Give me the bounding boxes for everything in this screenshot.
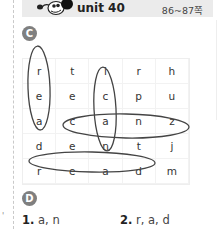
unit-title: unit 40 [77, 1, 125, 15]
grid-cell: n [123, 109, 156, 134]
grid-cell: c [89, 84, 122, 109]
answer-text: r, a, d [136, 213, 170, 227]
grid-cell: r [23, 59, 56, 84]
margin-dashed-line [13, 0, 14, 229]
margin-mark: ' [2, 212, 4, 221]
page-edge-line [216, 20, 217, 120]
grid-cell: d [123, 159, 156, 184]
page-range: 86~87쪽 [162, 3, 203, 17]
cartoon-mascot-icon [36, 0, 78, 16]
grid-cell: i [89, 59, 122, 84]
section-c-badge: C [22, 26, 37, 41]
grid-cell: t [123, 134, 156, 159]
grid-cell: n [89, 134, 122, 159]
grid-cell: e [23, 84, 56, 109]
answer-2: 2. r, a, d [120, 213, 170, 227]
grid-cell: z [156, 109, 189, 134]
grid-cell: e [56, 84, 89, 109]
grid-cell: a [89, 109, 122, 134]
grid-cell: j [156, 134, 189, 159]
grid-cell: p [123, 84, 156, 109]
grid-cell: e [56, 159, 89, 184]
grid-cell: r [123, 59, 156, 84]
grid-cell: t [56, 59, 89, 84]
answer-1: 1. a, n [22, 213, 60, 227]
unit-header: unit 40 86~87쪽 [22, 0, 213, 17]
answer-text: a, n [38, 213, 60, 227]
grid-cell: u [156, 84, 189, 109]
section-d-badge: D [22, 191, 37, 206]
grid-cell: a [23, 109, 56, 134]
answer-number: 2. [120, 213, 132, 227]
grid-cell: c [56, 109, 89, 134]
grid-cell: m [156, 159, 189, 184]
word-search-grid: r t i r h e e c p u a c a n z d e n t j … [22, 58, 190, 185]
grid-cell: h [156, 59, 189, 84]
answer-number: 1. [22, 213, 34, 227]
grid-cell: d [23, 134, 56, 159]
grid-cell: a [89, 159, 122, 184]
grid-cell: e [56, 134, 89, 159]
grid-cell: r [23, 159, 56, 184]
